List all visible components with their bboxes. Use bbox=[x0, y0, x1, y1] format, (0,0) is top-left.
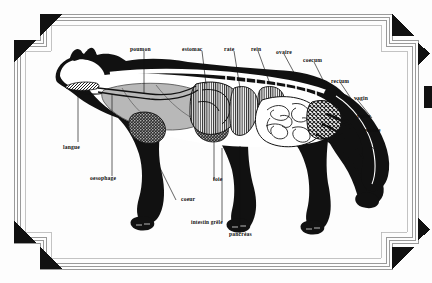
label-ovaire: ovaire bbox=[276, 50, 292, 56]
label-coecum: coecum bbox=[303, 58, 322, 64]
label-coeur: coeur bbox=[181, 197, 195, 203]
label-rate: rate bbox=[224, 47, 234, 53]
label-oesophage: oesophage bbox=[90, 176, 116, 182]
label-vessie: vessie bbox=[366, 128, 381, 134]
label-rein: rein bbox=[251, 47, 261, 53]
anatomy-plate-page: poumon estomac rate rein ovaire coecum r… bbox=[0, 0, 432, 283]
label-poumon: poumon bbox=[130, 47, 151, 53]
label-vulve: vulve bbox=[357, 114, 371, 120]
label-rectum: rectum bbox=[331, 79, 349, 85]
label-intestin-grele: intestin grêle bbox=[191, 220, 223, 225]
label-foie: foie bbox=[213, 177, 222, 183]
label-pancreas: pancréas bbox=[229, 232, 252, 238]
label-estomac: estomac bbox=[182, 47, 203, 53]
page-caption bbox=[0, 272, 432, 282]
label-vagin: vagin bbox=[354, 96, 368, 102]
label-langue: langue bbox=[63, 145, 80, 151]
